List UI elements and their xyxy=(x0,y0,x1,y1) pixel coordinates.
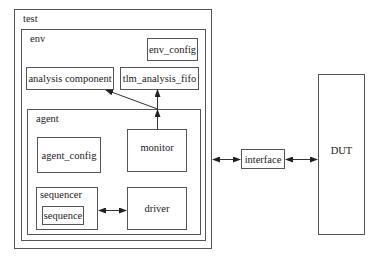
monitor-to-analysis-arrow xyxy=(106,90,158,109)
connection-lines xyxy=(0,0,375,257)
